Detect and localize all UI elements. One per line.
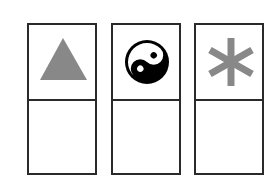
card-bottom-text	[196, 101, 262, 173]
card-bottom-text	[113, 101, 179, 173]
card-empty-cell	[113, 101, 179, 173]
card-yin-yang	[111, 23, 181, 175]
yin-yang-icon	[113, 25, 179, 99]
card-symbol-cell	[113, 25, 179, 101]
card-triangle	[27, 23, 97, 175]
asterisk-icon	[196, 25, 262, 99]
card-symbol-cell	[29, 25, 95, 101]
card-empty-cell	[29, 101, 95, 173]
card-asterisk	[194, 23, 264, 175]
symbol-cards-diagram	[0, 0, 278, 185]
card-empty-cell	[196, 101, 262, 173]
card-bottom-text	[29, 101, 95, 173]
triangle-icon	[29, 25, 95, 99]
card-symbol-cell	[196, 25, 262, 101]
